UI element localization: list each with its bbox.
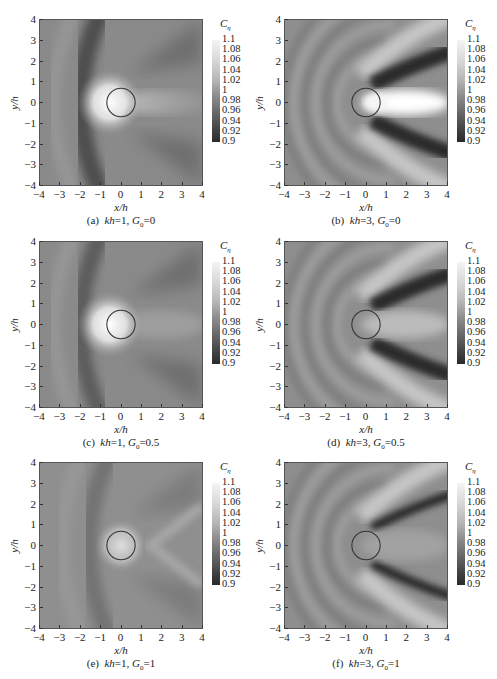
y-axis-label: y/h bbox=[8, 310, 20, 340]
colorbar-title: Cη bbox=[465, 460, 476, 475]
y-tick-mark bbox=[285, 566, 288, 567]
y-tick-mark bbox=[285, 386, 288, 387]
colorbar-tick-label: 0.9 bbox=[222, 358, 235, 368]
panel-caption: (d) kh=3, G0=0.5 bbox=[266, 436, 466, 451]
y-tick-label: 1 bbox=[265, 519, 281, 530]
colorbar-title-subscript: η bbox=[472, 24, 475, 32]
x-tick-label: 0 bbox=[113, 411, 129, 422]
y-tick-label: −1 bbox=[20, 118, 36, 129]
caption-g-symbol: G bbox=[128, 436, 136, 448]
x-tick-mark bbox=[427, 182, 428, 185]
x-tick-mark bbox=[100, 625, 101, 628]
colorbar bbox=[457, 483, 465, 585]
colorbar-tick-label: 0.96 bbox=[222, 548, 240, 558]
y-tick-mark bbox=[285, 607, 288, 608]
colorbar-title-subscript: η bbox=[227, 467, 230, 475]
x-tick-mark bbox=[406, 182, 407, 185]
y-tick-label: 2 bbox=[20, 499, 36, 510]
colorbar-tick-label: 0.9 bbox=[222, 136, 235, 146]
caption-prefix: (c) bbox=[83, 436, 95, 448]
x-tick-mark bbox=[427, 625, 428, 628]
x-tick-mark bbox=[406, 404, 407, 407]
x-tick-label: 4 bbox=[194, 632, 210, 643]
y-tick-label: 3 bbox=[265, 257, 281, 268]
y-tick-label: −2 bbox=[265, 582, 281, 593]
caption-kh-value: =3, bbox=[360, 214, 374, 226]
x-tick-mark bbox=[182, 404, 183, 407]
y-tick-mark bbox=[285, 19, 288, 20]
colorbar-tick-label: 1.06 bbox=[222, 497, 240, 507]
x-tick-mark bbox=[406, 625, 407, 628]
y-tick-mark bbox=[40, 462, 43, 463]
y-tick-label: −2 bbox=[265, 361, 281, 372]
y-tick-mark bbox=[40, 81, 43, 82]
x-tick-mark bbox=[100, 404, 101, 407]
x-tick-label: 3 bbox=[174, 632, 190, 643]
caption-prefix: (f) bbox=[332, 657, 343, 669]
x-tick-mark bbox=[366, 404, 367, 407]
x-tick-label: −3 bbox=[296, 411, 312, 422]
panel-caption: (e) kh=1, G0=1 bbox=[21, 657, 221, 672]
x-tick-mark bbox=[182, 625, 183, 628]
x-tick-label: 2 bbox=[153, 411, 169, 422]
y-tick-label: −2 bbox=[20, 582, 36, 593]
y-tick-label: −3 bbox=[20, 381, 36, 392]
y-tick-label: 0 bbox=[265, 540, 281, 551]
heatmap-plot-e bbox=[39, 462, 203, 629]
x-axis-label: x/h bbox=[346, 644, 386, 656]
x-tick-mark bbox=[80, 182, 81, 185]
heatmap-plot-b bbox=[284, 19, 448, 186]
colorbar-tick-label: 0.96 bbox=[467, 548, 485, 558]
y-axis-label: y/h bbox=[253, 531, 265, 561]
x-tick-label: −3 bbox=[296, 632, 312, 643]
heatmap-plot-f bbox=[284, 462, 448, 629]
colorbar bbox=[212, 483, 220, 585]
y-tick-mark bbox=[40, 345, 43, 346]
y-tick-label: −3 bbox=[265, 602, 281, 613]
y-tick-mark bbox=[40, 366, 43, 367]
caption-g-symbol: G bbox=[373, 436, 381, 448]
x-tick-label: 4 bbox=[194, 411, 210, 422]
y-tick-label: −1 bbox=[265, 340, 281, 351]
x-tick-mark bbox=[161, 404, 162, 407]
y-tick-mark bbox=[285, 102, 288, 103]
y-tick-mark bbox=[40, 164, 43, 165]
x-tick-mark bbox=[345, 404, 346, 407]
colorbar bbox=[457, 40, 465, 142]
x-tick-label: 3 bbox=[419, 411, 435, 422]
x-tick-mark bbox=[121, 404, 122, 407]
x-tick-label: 2 bbox=[398, 189, 414, 200]
y-tick-label: 4 bbox=[265, 457, 281, 468]
x-tick-mark bbox=[59, 182, 60, 185]
x-tick-mark bbox=[59, 404, 60, 407]
x-tick-label: −3 bbox=[296, 189, 312, 200]
x-tick-label: −2 bbox=[317, 632, 333, 643]
colorbar-title: Cη bbox=[220, 17, 231, 32]
y-tick-mark bbox=[40, 102, 43, 103]
caption-kh-value: =3, bbox=[356, 436, 370, 448]
x-tick-label: −1 bbox=[92, 411, 108, 422]
caption-kh-value: =3, bbox=[359, 657, 373, 669]
x-tick-mark bbox=[161, 182, 162, 185]
x-tick-label: 1 bbox=[378, 632, 394, 643]
y-tick-mark bbox=[40, 262, 43, 263]
y-tick-mark bbox=[40, 19, 43, 20]
y-tick-mark bbox=[285, 407, 288, 408]
y-tick-mark bbox=[285, 61, 288, 62]
x-tick-label: 0 bbox=[358, 189, 374, 200]
y-tick-label: 3 bbox=[20, 257, 36, 268]
y-tick-mark bbox=[285, 241, 288, 242]
y-tick-label: −3 bbox=[265, 159, 281, 170]
x-tick-mark bbox=[39, 404, 40, 407]
x-tick-mark bbox=[447, 182, 448, 185]
x-tick-label: 1 bbox=[133, 189, 149, 200]
x-tick-mark bbox=[202, 625, 203, 628]
x-tick-mark bbox=[345, 182, 346, 185]
x-tick-mark bbox=[325, 404, 326, 407]
x-tick-label: −1 bbox=[92, 189, 108, 200]
x-tick-label: 1 bbox=[133, 411, 149, 422]
y-tick-label: 4 bbox=[20, 457, 36, 468]
x-tick-label: 0 bbox=[358, 632, 374, 643]
x-tick-mark bbox=[121, 182, 122, 185]
y-tick-label: −3 bbox=[20, 602, 36, 613]
